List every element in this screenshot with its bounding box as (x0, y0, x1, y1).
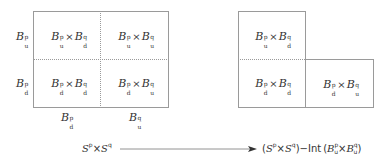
sub: d (287, 90, 291, 96)
label-sup: q (138, 115, 142, 121)
label-sub: u (25, 43, 29, 49)
map-arrow-icon (120, 144, 260, 154)
sup: q (355, 82, 359, 88)
sub: d (287, 43, 291, 49)
label-base: B (61, 111, 69, 124)
right-shape-dotted-divider (238, 59, 305, 60)
right-cell-bottom-left: Bpd×Bqd (255, 78, 287, 89)
cell-top-right: Bpu×Bqu (118, 31, 150, 42)
cell-factor-a: B (323, 78, 331, 91)
cell-factor-b: B (142, 77, 150, 90)
cell-factor-b: B (75, 77, 83, 90)
sup: q (83, 81, 87, 87)
times-sign: × (269, 31, 277, 42)
column-label-left: Bpd (61, 112, 69, 123)
right-shape-bottom-edge (238, 107, 374, 108)
right-shape-right-edge (373, 59, 374, 108)
label-base: B (129, 111, 137, 124)
left-grid-horizontal-divider (33, 59, 169, 60)
minus-sign: − (300, 143, 308, 154)
label-base: B (16, 77, 24, 90)
cell-factor-b: B (142, 30, 150, 43)
times-sign: × (269, 78, 277, 89)
column-label-right: Bqu (129, 112, 137, 123)
sup: q (287, 34, 291, 40)
sup: q (150, 34, 154, 40)
times-sign: × (93, 143, 101, 154)
right-shape-step-top-edge (305, 59, 374, 60)
sub: d (127, 90, 131, 96)
cell-factor-b: B (279, 30, 287, 43)
label-sup: p (25, 34, 29, 40)
sup: p (127, 81, 131, 87)
sub: d (264, 90, 268, 96)
times-sign: × (337, 79, 345, 90)
times-sign: × (132, 31, 140, 42)
label-sub: d (70, 124, 74, 130)
map-source: Sp×Sq (82, 142, 112, 154)
times-sign: × (277, 143, 285, 154)
sup: p (264, 81, 268, 87)
sub: d (332, 91, 336, 97)
sub: d (83, 90, 87, 96)
times-sign: × (65, 31, 73, 42)
sup: p (60, 81, 64, 87)
sup: p (127, 34, 131, 40)
label-base: B (16, 30, 24, 43)
sup: p (264, 34, 268, 40)
label-sub: u (138, 124, 142, 130)
sphere-s: S (285, 143, 292, 154)
cell-factor-a: B (51, 30, 59, 43)
sub: u (150, 90, 154, 96)
right-shape-top-edge (238, 11, 306, 12)
times-sign: × (65, 78, 73, 89)
sub: u (150, 43, 154, 49)
label-sup: p (25, 81, 29, 87)
row-label-bottom: Bpd (16, 78, 24, 89)
sub: u (60, 43, 64, 49)
cell-factor-b: B (279, 77, 287, 90)
ball-b: B (346, 143, 353, 154)
sphere-s: S (266, 143, 273, 154)
right-cell-bottom-right: Bpd×Bqu (323, 79, 355, 90)
cell-factor-a: B (118, 77, 126, 90)
sup: q (83, 34, 87, 40)
paren: ) (357, 143, 361, 154)
right-cell-top: Bpu×Bqd (255, 31, 287, 42)
sup: p (60, 34, 64, 40)
sphere-s: S (82, 143, 89, 154)
cell-factor-a: B (118, 30, 126, 43)
times-sign: × (132, 78, 140, 89)
interior-operator: Int (308, 143, 321, 154)
sphere-s: S (101, 143, 108, 154)
label-sub: d (25, 90, 29, 96)
sub: u (355, 91, 359, 97)
sup: q (150, 81, 154, 87)
sub: u (264, 43, 268, 49)
cell-factor-a: B (51, 77, 59, 90)
sup: q (108, 141, 112, 148)
sup: p (332, 82, 336, 88)
sub: d (83, 43, 87, 49)
cell-bottom-right: Bpd×Bqu (118, 78, 150, 89)
sub: d (60, 90, 64, 96)
cell-factor-a: B (255, 77, 263, 90)
cell-factor-b: B (75, 30, 83, 43)
sub: u (127, 43, 131, 49)
label-sup: p (70, 115, 74, 121)
map-target: (Sp×Sq)−Int (Bpu×Bqu) (262, 142, 361, 155)
row-label-top: Bpu (16, 31, 24, 42)
cell-top-left: Bpu×Bqd (51, 31, 83, 42)
cell-factor-b: B (347, 78, 355, 91)
cell-bottom-left: Bpd×Bqd (51, 78, 83, 89)
cell-factor-a: B (255, 30, 263, 43)
sup: q (287, 81, 291, 87)
